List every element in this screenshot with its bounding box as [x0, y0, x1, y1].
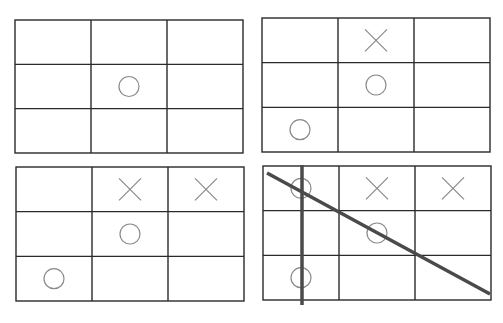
x-mark-icon [442, 177, 464, 199]
cell-r1-c1 [366, 75, 386, 95]
cell-r0-c1 [366, 177, 388, 199]
o-mark-icon [119, 77, 139, 97]
board-3 [16, 167, 244, 301]
cell-r0-c2 [195, 178, 217, 200]
x-mark-icon [366, 177, 388, 199]
board-border [15, 20, 243, 153]
o-mark-icon [44, 269, 64, 289]
cell-r1-c1 [120, 224, 140, 244]
cell-r0-c2 [442, 177, 464, 199]
tic-tac-toe-diagram [0, 0, 503, 323]
cell-r2-c0 [44, 269, 64, 289]
o-mark-icon [366, 75, 386, 95]
x-mark-icon [365, 29, 387, 51]
cell-r1-c1 [119, 77, 139, 97]
cell-r2-c0 [290, 120, 310, 140]
board-border [16, 167, 244, 301]
board-2 [262, 18, 490, 152]
cell-r0-c1 [119, 178, 141, 200]
x-mark-icon [119, 178, 141, 200]
o-mark-icon [290, 120, 310, 140]
o-mark-icon [120, 224, 140, 244]
board-4 [263, 165, 491, 305]
x-mark-icon [195, 178, 217, 200]
board-1 [15, 20, 243, 153]
board-border [262, 18, 490, 152]
cell-r0-c1 [365, 29, 387, 51]
